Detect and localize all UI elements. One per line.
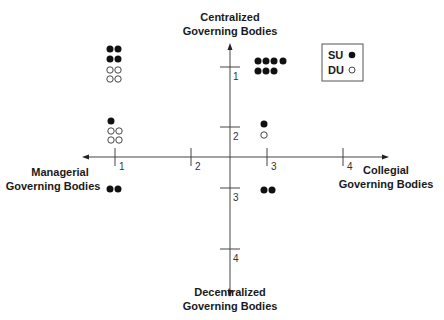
arrow-right-icon <box>382 155 389 160</box>
left-label-line2: Governing Bodies <box>6 180 101 192</box>
cluster-x3-y2 <box>261 121 268 139</box>
bottom-label-line2: Governing Bodies <box>183 300 278 312</box>
x-tick-1: 1 <box>119 161 125 172</box>
y-tick-4: 4 <box>233 253 239 264</box>
arrow-left-icon <box>82 155 89 160</box>
hollow-circle-icon <box>349 67 355 73</box>
legend: SU DU <box>322 44 363 81</box>
y-tick-1: 1 <box>233 71 239 82</box>
filled-circle-icon <box>349 52 356 59</box>
left-label-line1: Managerial <box>31 166 88 178</box>
legend-du-label: DU <box>328 64 344 76</box>
x-tick-2: 2 <box>195 161 201 172</box>
legend-su-label: SU <box>328 49 343 61</box>
y-tick-3: 3 <box>233 192 239 203</box>
top-label-line2: Governing Bodies <box>183 25 278 37</box>
y-tick-2: 2 <box>233 131 239 142</box>
cluster-x1-y1 <box>107 46 122 83</box>
cluster-x3-y3 <box>261 187 276 194</box>
top-label-line1: Centralized <box>200 11 259 23</box>
right-label-line1: Collegial <box>363 164 409 176</box>
quadrant-diagram: 1 2 3 4 1 2 3 4 Centralized Governing Bo… <box>0 0 444 320</box>
bottom-label-line1: Decentralized <box>194 286 266 298</box>
cluster-x3-y1 <box>255 58 287 75</box>
cluster-x1-y2 <box>108 118 123 144</box>
right-label-line2: Governing Bodies <box>339 178 434 190</box>
x-tick-4: 4 <box>347 161 353 172</box>
arrow-up-icon <box>228 43 233 50</box>
cluster-x1-y3 <box>107 186 122 193</box>
x-tick-3: 3 <box>271 161 277 172</box>
